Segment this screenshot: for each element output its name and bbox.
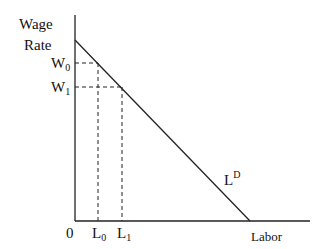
x-axis-label: Labor xyxy=(251,230,282,243)
y-axis-label-line1: Wage xyxy=(19,17,53,32)
labor-demand-curve xyxy=(75,40,250,221)
l1-label: L1 xyxy=(117,226,131,243)
labor-demand-label: LD xyxy=(224,170,240,188)
y-axis-label-line2: Rate xyxy=(24,38,52,53)
w0-label: W0 xyxy=(51,56,70,73)
l0-label: L0 xyxy=(92,226,106,243)
w1-label: W1 xyxy=(51,80,70,97)
origin-label: 0 xyxy=(66,226,74,241)
